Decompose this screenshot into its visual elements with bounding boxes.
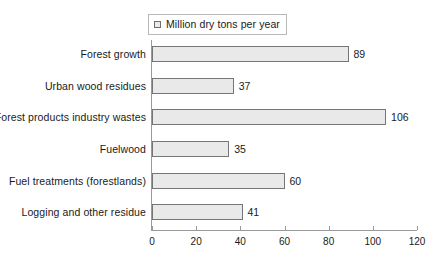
bar [152, 78, 234, 94]
bar [152, 173, 285, 189]
bar-chart: Million dry tons per year 02040608010012… [0, 0, 439, 259]
bar-row: Fuelwood35 [152, 135, 417, 167]
chart-legend: Million dry tons per year [148, 14, 287, 35]
x-axis-line [151, 230, 417, 231]
square-marker-icon [154, 21, 161, 28]
bar [152, 204, 243, 220]
bar [152, 141, 229, 157]
bar-row: Urban wood residues37 [152, 72, 417, 104]
bar-row: Fuel treatments (forestlands)60 [152, 167, 417, 199]
x-tick-label: 100 [364, 236, 381, 247]
category-label: Fuelwood [100, 141, 146, 157]
x-tick-label: 0 [149, 236, 155, 247]
category-label: Urban wood residues [45, 78, 146, 94]
bar-row: Forest products industry wastes106 [152, 103, 417, 135]
x-tick-label: 120 [409, 236, 426, 247]
x-tick-label: 40 [235, 236, 246, 247]
x-tick-label: 60 [279, 236, 290, 247]
bar-value-label: 41 [243, 204, 260, 220]
category-label: Forest growth [81, 46, 147, 62]
bar [152, 46, 349, 62]
category-label: Fuel treatments (forestlands) [9, 173, 146, 189]
bar-value-label: 37 [234, 78, 251, 94]
bar-value-label: 35 [229, 141, 246, 157]
x-tick-label: 80 [323, 236, 334, 247]
bar [152, 109, 386, 125]
bar-value-label: 60 [285, 173, 302, 189]
category-label: Logging and other residue [21, 204, 146, 220]
x-tick-label: 20 [191, 236, 202, 247]
plot-area: 020406080100120 Forest growth89Urban woo… [152, 40, 417, 230]
bar-row: Forest growth89 [152, 40, 417, 72]
category-label: Forest products industry wastes [0, 109, 146, 125]
bar-value-label: 106 [386, 109, 409, 125]
bar-row: Logging and other residue41 [152, 198, 417, 230]
bar-value-label: 89 [349, 46, 366, 62]
x-tick [417, 226, 418, 230]
legend-label: Million dry tons per year [166, 19, 280, 30]
